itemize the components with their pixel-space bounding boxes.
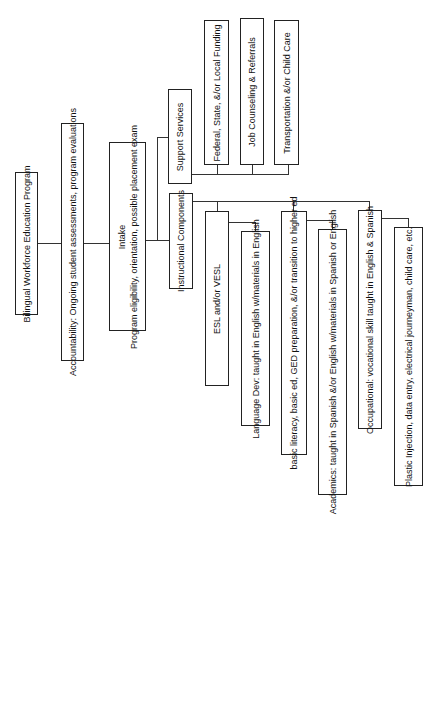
job-counseling-label: Job Counseling & Referrals [247,37,258,147]
connector [192,174,289,175]
connector [84,243,110,244]
occupational-box: Occupational: vocational skill taught in… [358,210,382,429]
connector [382,218,409,219]
plastic-injection-box: Plastic Injection, data entry, electrica… [394,227,423,486]
intake-label: Intake Program eligibility, orientation,… [116,125,140,349]
root-label: Bilingual Workforce Education Program [21,165,32,322]
basic-literacy-box: basic literacy, basic ed, GED preparatio… [281,211,307,455]
transportation-box: Transportation &/or Child Care [274,20,299,165]
academics-box: Academics: taught in Spanish &/or Englis… [318,229,347,495]
language-dev-label: Language Dev: taught in English w/materi… [250,219,261,439]
esl-box: ESL and/or VESL [205,211,229,386]
connector [193,201,370,202]
connector [288,164,289,174]
connector [252,164,253,174]
support-services-box: Support Services [168,89,192,184]
transportation-label: Transportation &/or Child Care [281,32,292,154]
connector [38,243,62,244]
esl-label: ESL and/or VESL [212,263,223,333]
accountability-label: Accountability: Ongoing student assessme… [67,108,78,376]
instructional-components-label: Instructional Components [176,190,187,292]
plastic-injection-label: Plastic Injection, data entry, electrica… [403,227,414,487]
language-dev-box: Language Dev: taught in English w/materi… [241,231,270,426]
job-counseling-box: Job Counseling & Referrals [240,18,264,165]
basic-literacy-label: basic literacy, basic ed, GED preparatio… [289,197,300,470]
connector [146,240,170,241]
instructional-components-box: Instructional Components [169,193,193,289]
intake-detail: Program eligibility, orientation, possib… [129,125,139,349]
academics-label: Academics: taught in Spanish &/or Englis… [327,210,338,515]
intake-box: Intake Program eligibility, orientation,… [109,142,146,331]
connector [157,137,158,241]
funding-box: Federal, State, &/or Local Funding [204,20,229,165]
support-services-label: Support Services [175,102,186,171]
accountability-box: Accountability: Ongoing student assessme… [61,123,84,361]
intake-title: Intake [117,224,127,249]
funding-label: Federal, State, &/or Local Funding [211,24,222,161]
connector [217,164,218,174]
occupational-label: Occupational: vocational skill taught in… [365,205,376,433]
root-box: Bilingual Workforce Education Program [15,172,38,315]
